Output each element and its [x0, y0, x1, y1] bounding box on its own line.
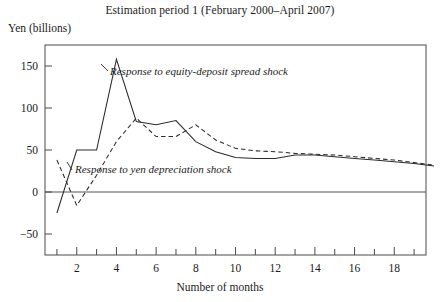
annotation-equity-deposit-spread: Response to equity-deposit spread shock — [109, 65, 289, 77]
x-tick-label: 14 — [309, 262, 321, 274]
y-tick-label: 150 — [21, 60, 39, 72]
y-tick-label: 50 — [27, 144, 39, 156]
y-tick-label: 100 — [21, 102, 39, 114]
x-tick-label: 8 — [193, 262, 199, 274]
y-tick-label: −50 — [20, 228, 38, 240]
x-tick-label: 4 — [114, 262, 120, 274]
x-tick-label: 12 — [269, 262, 281, 274]
x-tick-label: 6 — [153, 262, 159, 274]
annotation-leader-1 — [101, 64, 108, 71]
annotation-yen-depreciation: Response to yen depreciation shock — [74, 163, 233, 175]
x-tick-label: 2 — [74, 262, 80, 274]
y-tick-label: 0 — [32, 186, 38, 198]
figure-container: Estimation period 1 (February 2000–April… — [0, 0, 440, 302]
x-tick-label: 10 — [230, 262, 242, 274]
series-line-1 — [57, 59, 434, 213]
plot-area: −5005010015024681012141618 Response to e… — [0, 0, 440, 302]
x-tick-label: 18 — [389, 262, 401, 274]
x-tick-label: 16 — [349, 262, 361, 274]
series-layer — [57, 59, 434, 213]
